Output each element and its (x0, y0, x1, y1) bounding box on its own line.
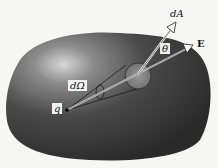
gauss-diagram (0, 0, 218, 168)
field-label: E (197, 38, 205, 49)
area-element-label: dA (170, 8, 184, 19)
charge-label: q (52, 103, 62, 114)
charge-point (65, 108, 69, 112)
angle-label: θ (160, 43, 170, 54)
area-element-patch (125, 63, 151, 89)
solid-angle-label: dΩ (68, 80, 87, 91)
